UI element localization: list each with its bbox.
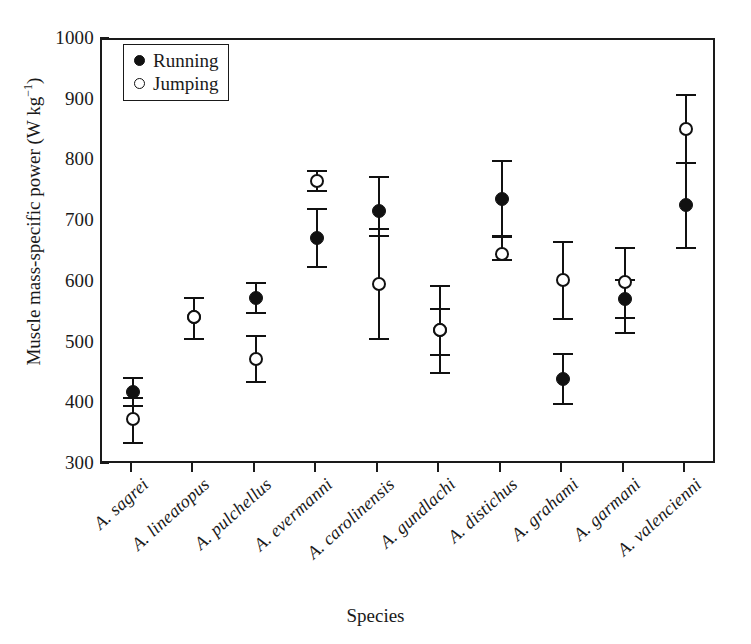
x-tick-mark <box>622 463 624 472</box>
x-tick-mark <box>437 463 439 472</box>
x-tick-mark <box>376 463 378 472</box>
x-tick-mark <box>560 463 562 472</box>
x-tick-mark <box>130 463 132 472</box>
x-tick-mark <box>499 463 501 472</box>
x-axis-tick-labels: A. sagreiA. lineatopusA. pulchellusA. ev… <box>0 0 751 180</box>
figure-container: Muscle mass-specific power (W kg−1) 1000… <box>0 0 751 644</box>
x-tick-mark <box>683 463 685 472</box>
x-tick-mark <box>314 463 316 472</box>
x-tick-mark <box>253 463 255 472</box>
x-axis-title: Species <box>0 605 751 627</box>
x-tick-mark <box>191 463 193 472</box>
x-tick-label: A. grahami <box>508 474 584 545</box>
